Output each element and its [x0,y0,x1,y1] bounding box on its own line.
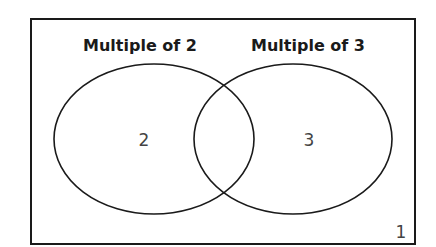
set-label-multiple-of-2: Multiple of 2 [83,36,197,55]
set-label-multiple-of-3: Multiple of 3 [251,36,365,55]
universe-value: 1 [396,222,407,242]
set-2-only-value: 2 [139,130,150,150]
set-3-only-value: 3 [304,130,315,150]
set-multiple-of-3-circle [194,64,392,214]
set-multiple-of-2-circle [54,64,254,214]
venn-diagram: Multiple of 2 Multiple of 3 2 3 1 [0,0,436,247]
